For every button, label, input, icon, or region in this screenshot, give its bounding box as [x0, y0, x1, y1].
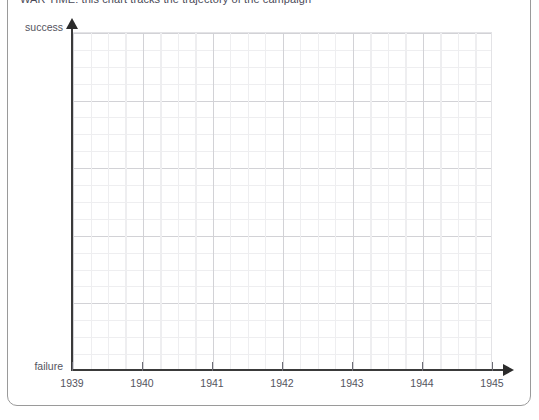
x-axis-tick — [352, 362, 353, 371]
y-axis-line — [71, 26, 73, 371]
x-axis-tick — [282, 362, 283, 371]
y-axis-top-label: success — [3, 21, 63, 33]
x-axis-tick — [212, 362, 213, 371]
x-axis-tick-label: 1942 — [270, 377, 293, 389]
x-axis-tick — [142, 362, 143, 371]
x-axis-tick — [72, 362, 73, 371]
y-axis-arrow-icon — [66, 18, 78, 29]
x-axis-tick-label: 1943 — [340, 377, 363, 389]
chart-gridlines — [72, 32, 492, 370]
x-axis-tick-label: 1940 — [130, 377, 153, 389]
x-axis-tick — [492, 362, 493, 371]
x-axis-tick-label: 1944 — [410, 377, 433, 389]
chart-plot: success failure 193919401941194219431944… — [0, 0, 539, 420]
x-axis-line — [71, 369, 505, 371]
x-axis-tick-label: 1939 — [60, 377, 83, 389]
x-axis-arrow-icon — [503, 364, 514, 376]
x-axis-tick-label: 1945 — [480, 377, 503, 389]
x-axis-tick — [422, 362, 423, 371]
x-axis-tick-label: 1941 — [200, 377, 223, 389]
y-axis-bottom-label: failure — [3, 360, 63, 372]
